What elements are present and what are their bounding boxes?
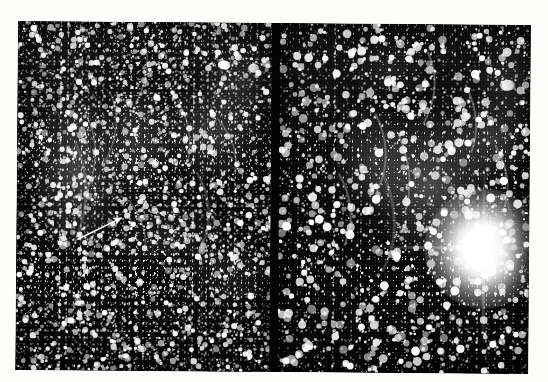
arrow-shaft (77, 217, 121, 239)
arrow-annotation (15, 21, 531, 374)
photographic-plate (15, 21, 531, 374)
photographic-plate-wrapper (15, 21, 531, 374)
figure-canvas (0, 0, 548, 382)
